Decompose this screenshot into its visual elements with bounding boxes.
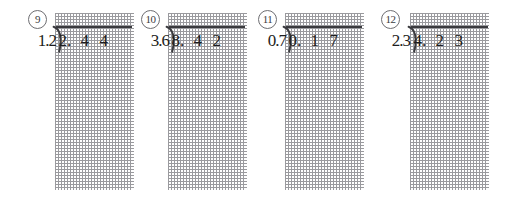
grid-row-line bbox=[55, 150, 133, 151]
dividend-digit: 2. bbox=[55, 31, 75, 51]
dividend-digit: 2 bbox=[430, 31, 450, 51]
dividend-digit: 4 bbox=[94, 31, 114, 51]
grid-row-line bbox=[285, 111, 363, 112]
grid-column-line bbox=[227, 13, 228, 189]
grid-row-line bbox=[410, 13, 488, 14]
grid-row-line bbox=[55, 111, 133, 112]
division-vinculum bbox=[56, 26, 132, 28]
grid-row-line bbox=[285, 189, 363, 190]
problem-number-badge: 10 bbox=[141, 10, 160, 29]
grid-row-line bbox=[168, 111, 246, 112]
problem-number-badge: 12 bbox=[381, 10, 400, 29]
grid-row-line bbox=[410, 150, 488, 151]
division-vinculum bbox=[286, 26, 362, 28]
grid-row-line bbox=[285, 52, 363, 53]
problem-number-badge: 9 bbox=[28, 10, 47, 29]
grid-row-line bbox=[410, 72, 488, 73]
grid-row-line bbox=[55, 72, 133, 73]
grid-row-line bbox=[410, 130, 488, 131]
dividend-digit: 3 bbox=[449, 31, 469, 51]
grid-column-line bbox=[133, 13, 134, 189]
grid-row-line bbox=[168, 13, 246, 14]
grid-column-line bbox=[488, 13, 489, 189]
grid-row-line bbox=[55, 91, 133, 92]
grid-column-line bbox=[469, 13, 470, 189]
grid-column-line bbox=[344, 13, 345, 189]
division-vinculum bbox=[169, 26, 245, 28]
grid-row-line bbox=[168, 169, 246, 170]
grid-row-line bbox=[55, 169, 133, 170]
grid-row-line bbox=[55, 52, 133, 53]
grid-row-line bbox=[168, 150, 246, 151]
grid-row-line bbox=[168, 130, 246, 131]
grid-row-line bbox=[168, 189, 246, 190]
worksheet-canvas: 91.22.44103.68.42110.70.17122.34.23 bbox=[0, 0, 516, 202]
grid-column-line bbox=[114, 13, 115, 189]
dividend-digit: 2 bbox=[207, 31, 227, 51]
dividend-digit: 8. bbox=[168, 31, 188, 51]
grid-column-line bbox=[363, 13, 364, 189]
grid-row-line bbox=[285, 91, 363, 92]
grid-row-line bbox=[410, 111, 488, 112]
division-vinculum bbox=[411, 26, 488, 28]
grid-row-line bbox=[285, 13, 363, 14]
problem-number-badge: 11 bbox=[258, 10, 277, 29]
grid-row-line bbox=[285, 150, 363, 151]
grid-row-line bbox=[410, 52, 488, 53]
dividend-digit: 4 bbox=[188, 31, 208, 51]
grid-row-line bbox=[168, 52, 246, 53]
grid-column-line bbox=[246, 13, 247, 189]
dividend-digit: 4. bbox=[410, 31, 430, 51]
grid-row-line bbox=[410, 169, 488, 170]
dividend-digit: 0. bbox=[285, 31, 305, 51]
grid-row-line bbox=[285, 72, 363, 73]
grid-row-line bbox=[410, 91, 488, 92]
grid-row-line bbox=[285, 130, 363, 131]
grid-row-line bbox=[55, 130, 133, 131]
dividend-digit: 4 bbox=[75, 31, 95, 51]
grid-row-line bbox=[168, 72, 246, 73]
divisor-value: 2.3 bbox=[386, 31, 410, 51]
grid-row-line bbox=[55, 189, 133, 190]
grid-row-line bbox=[410, 189, 488, 190]
grid-row-line bbox=[285, 169, 363, 170]
dividend-digit: 7 bbox=[324, 31, 344, 51]
grid-row-line bbox=[168, 91, 246, 92]
grid-row-line bbox=[55, 13, 133, 14]
dividend-digit: 1 bbox=[305, 31, 325, 51]
